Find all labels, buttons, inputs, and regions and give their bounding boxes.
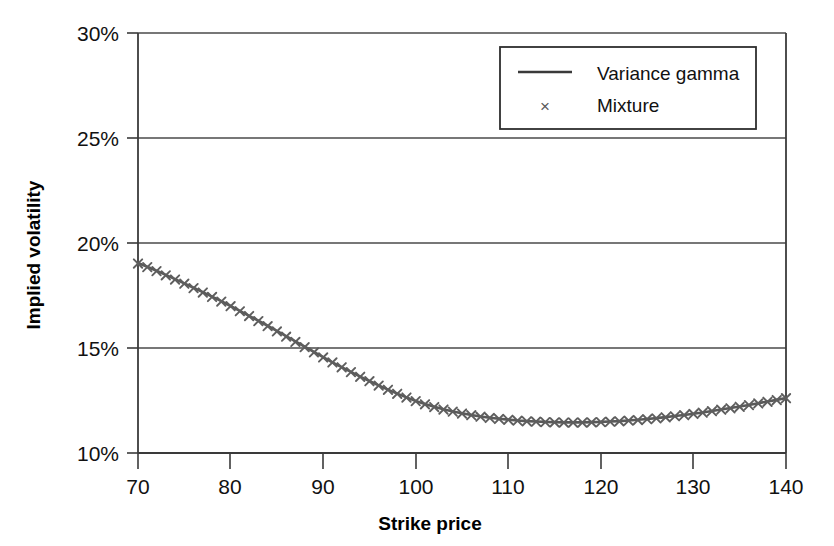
x-tick-label-70: 70 xyxy=(126,475,149,498)
implied-volatility-chart: 30% 25% 20% 15% 10% 70 80 90 100 110 120… xyxy=(0,0,834,546)
y-tick-label-25: 25% xyxy=(77,127,119,150)
x-tick-label-120: 120 xyxy=(583,475,618,498)
y-axis-title: Implied volatility xyxy=(23,180,44,329)
x-axis-title: Strike price xyxy=(378,513,482,534)
x-tick-label-130: 130 xyxy=(675,475,710,498)
y-tick-label-10: 10% xyxy=(77,442,119,465)
chart-legend: Variance gamma × Mixture xyxy=(500,47,756,129)
x-tick-label-140: 140 xyxy=(768,475,803,498)
x-tick-label-80: 80 xyxy=(218,475,241,498)
y-tick-label-15: 15% xyxy=(77,337,119,360)
legend-label-mixture: Mixture xyxy=(597,95,659,116)
legend-x-marker-icon: × xyxy=(540,97,550,116)
chart-figure: 30% 25% 20% 15% 10% 70 80 90 100 110 120… xyxy=(0,0,834,546)
y-tick-label-30: 30% xyxy=(77,22,119,45)
legend-box xyxy=(500,47,756,129)
x-tick-label-100: 100 xyxy=(398,475,433,498)
x-tick-label-90: 90 xyxy=(311,475,334,498)
y-tick-label-20: 20% xyxy=(77,232,119,255)
legend-label-variance-gamma: Variance gamma xyxy=(597,63,740,84)
x-tick-label-110: 110 xyxy=(491,475,524,498)
